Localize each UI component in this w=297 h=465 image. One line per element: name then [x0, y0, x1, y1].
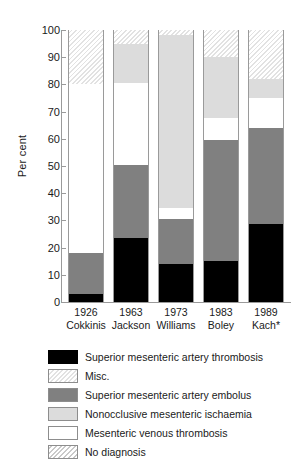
stacked-bar: [158, 30, 194, 302]
bar-segment: [204, 261, 238, 302]
bar-segment: [204, 118, 238, 140]
legend-item[interactable]: No diagnosis: [48, 442, 297, 461]
bar-segment: [114, 83, 148, 165]
legend-item-label: Mesenteric venous thrombosis: [85, 427, 227, 439]
legend-swatch-icon: [48, 350, 78, 364]
bar-segment: [114, 44, 148, 83]
legend-item[interactable]: Superior mesenteric artery embolus: [48, 385, 297, 404]
legend-swatch-icon: [48, 388, 78, 402]
bar-segment: [204, 57, 238, 118]
bar-segment: [114, 30, 148, 44]
stacked-bar: [203, 30, 239, 302]
x-axis-label-year: 1989: [237, 306, 295, 319]
x-axis-label-author: Kach*: [237, 319, 295, 332]
bar-segment: [69, 30, 103, 84]
bar-segment: [249, 79, 283, 98]
stacked-bar: [68, 30, 104, 302]
bar-segment: [159, 208, 193, 219]
bar-segment: [249, 224, 283, 302]
bar-segment: [159, 264, 193, 302]
chart-legend: Superior mesenteric artery thrombosisMis…: [48, 347, 297, 461]
legend-item[interactable]: Superior mesenteric artery thrombosis: [48, 347, 297, 366]
bar-segment: [114, 238, 148, 302]
bar-segment: [249, 30, 283, 79]
bar-segment: [69, 84, 103, 253]
legend-item[interactable]: Mesenteric venous thrombosis: [48, 423, 297, 442]
legend-item-label: Misc.: [85, 370, 110, 382]
bar-segment: [159, 30, 193, 35]
legend-swatch-icon: [48, 369, 78, 383]
legend-item-label: Nonocclusive mesenteric ischaemia: [85, 408, 252, 420]
bar-segment: [249, 128, 283, 225]
stacked-bar: [113, 30, 149, 302]
bar-segment: [204, 30, 238, 57]
bar-group: [0, 0, 297, 340]
x-axis-label: 1989Kach*: [237, 306, 295, 332]
bar-segment: [69, 294, 103, 302]
bar-segment: [249, 98, 283, 128]
legend-item[interactable]: Misc.: [48, 366, 297, 385]
legend-item-label: No diagnosis: [85, 446, 146, 458]
legend-item-label: Superior mesenteric artery thrombosis: [85, 351, 263, 363]
bar-segment: [69, 253, 103, 294]
stacked-bar: [248, 30, 284, 302]
legend-swatch-icon: [48, 426, 78, 440]
chart-container: Per cent 1009080706050403020100 1926Cokk…: [0, 0, 297, 340]
legend-item[interactable]: Nonocclusive mesenteric ischaemia: [48, 404, 297, 423]
bar-segment: [159, 219, 193, 264]
bar-segment: [204, 140, 238, 261]
legend-swatch-icon: [48, 407, 78, 421]
legend-swatch-icon: [48, 445, 78, 459]
bar-segment: [114, 165, 148, 238]
bar-segment: [159, 35, 193, 208]
legend-item-label: Superior mesenteric artery embolus: [85, 389, 251, 401]
